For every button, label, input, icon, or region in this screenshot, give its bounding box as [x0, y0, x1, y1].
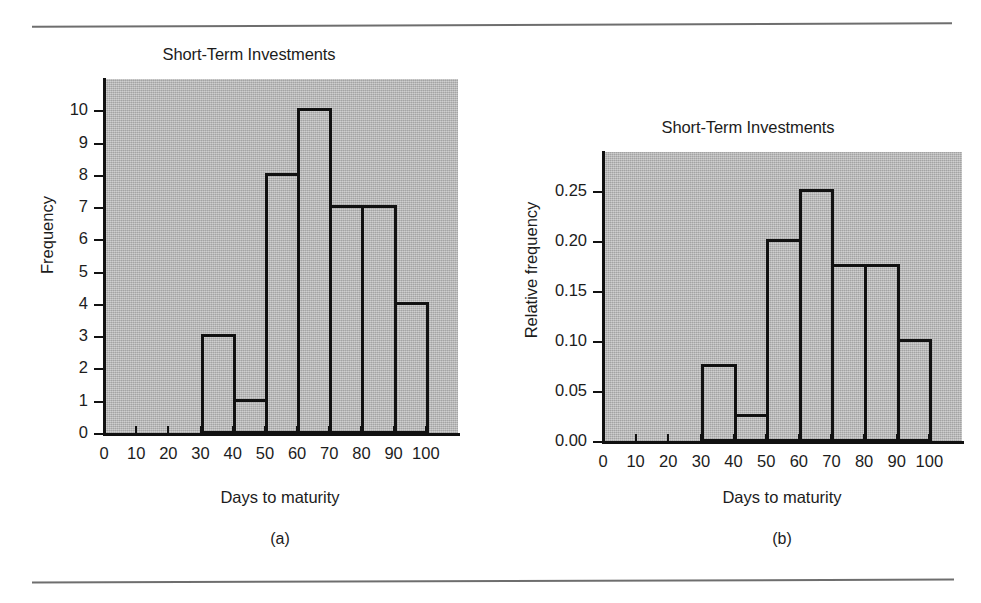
x-tick-label: 10 — [120, 444, 152, 463]
x-tick-label: 70 — [313, 444, 345, 463]
x-tick-label: 0 — [88, 444, 120, 463]
x-tick-label: 70 — [815, 452, 847, 471]
histogram-bar — [864, 264, 900, 442]
chart-b-y-axis-label: Relative frequency — [522, 140, 541, 400]
histogram-bar — [233, 399, 268, 434]
y-tick-label: 0.10 — [543, 331, 587, 350]
y-tick — [593, 391, 602, 393]
x-tick-label: 50 — [750, 452, 782, 471]
y-tick-label: 6 — [60, 229, 88, 248]
x-tick-label: 100 — [913, 452, 945, 471]
y-tick-label: 0.15 — [543, 281, 587, 300]
chart-b-caption: (b) — [702, 530, 862, 548]
y-tick-label: 7 — [60, 197, 88, 216]
y-tick-label: 3 — [60, 326, 88, 345]
y-tick-label: 5 — [60, 262, 88, 281]
x-tick-label: 40 — [217, 444, 249, 463]
y-tick — [593, 241, 602, 243]
y-tick-label: 9 — [60, 133, 88, 152]
chart-b-x-axis-label: Days to maturity — [662, 488, 902, 507]
chart-a-caption: (a) — [200, 530, 360, 548]
y-tick — [94, 304, 103, 306]
histogram-bar — [897, 339, 933, 442]
y-tick — [593, 441, 602, 443]
histogram-bar — [734, 414, 770, 442]
histogram-bar — [361, 205, 396, 434]
histogram-bar — [831, 264, 867, 442]
histogram-bar — [766, 239, 802, 442]
y-tick-label: 0.20 — [543, 231, 587, 250]
x-tick-label: 30 — [685, 452, 717, 471]
histogram-bar — [201, 334, 236, 434]
x-tick-label: 20 — [652, 452, 684, 471]
chart-panel-a: Short-Term Investments 012345678910 0102… — [0, 0, 490, 603]
y-tick — [593, 191, 602, 193]
x-tick-label: 30 — [185, 444, 217, 463]
y-tick — [94, 143, 103, 145]
y-tick-label: 0.00 — [543, 431, 587, 450]
x-tick-label: 60 — [281, 444, 313, 463]
y-tick-label: 2 — [60, 358, 88, 377]
x-tick-label: 0 — [587, 452, 619, 471]
x-tick-label: 100 — [410, 444, 442, 463]
x-tick-label: 20 — [152, 444, 184, 463]
y-tick-label: 10 — [60, 100, 88, 119]
y-tick-label: 4 — [60, 294, 88, 313]
x-tick-label: 90 — [881, 452, 913, 471]
histogram-bar — [329, 205, 364, 434]
y-tick — [94, 239, 103, 241]
x-tick-label: 40 — [718, 452, 750, 471]
y-tick — [94, 336, 103, 338]
y-tick-label: 8 — [60, 165, 88, 184]
y-tick — [94, 110, 103, 112]
y-tick — [94, 401, 103, 403]
y-tick — [94, 175, 103, 177]
histogram-bar — [297, 108, 332, 434]
y-tick — [94, 433, 103, 435]
x-tick-label: 80 — [345, 444, 377, 463]
figure-page: Short-Term Investments 012345678910 0102… — [0, 0, 981, 603]
chart-b-bars — [603, 152, 962, 442]
x-tick-label: 60 — [783, 452, 815, 471]
y-tick-label: 0 — [60, 423, 88, 442]
y-tick-label: 0.25 — [543, 181, 587, 200]
chart-a-title: Short-Term Investments — [104, 45, 394, 64]
histogram-bar — [265, 173, 300, 434]
y-tick — [593, 291, 602, 293]
y-tick-label: 0.05 — [543, 381, 587, 400]
y-tick-label: 1 — [60, 391, 88, 410]
chart-a-bars — [104, 79, 458, 434]
chart-a-x-axis-label: Days to maturity — [160, 488, 400, 507]
chart-panel-b: Short-Term Investments 0.000.050.100.150… — [490, 0, 981, 603]
chart-a-y-axis-label: Frequency — [38, 135, 57, 335]
x-tick-label: 80 — [848, 452, 880, 471]
x-tick-label: 10 — [620, 452, 652, 471]
x-tick-label: 90 — [378, 444, 410, 463]
y-tick — [593, 341, 602, 343]
chart-b-title: Short-Term Investments — [603, 118, 893, 137]
x-tick-label: 50 — [249, 444, 281, 463]
histogram-bar — [701, 364, 737, 442]
y-tick — [94, 207, 103, 209]
y-tick — [94, 272, 103, 274]
histogram-bar — [394, 302, 429, 434]
y-tick — [94, 368, 103, 370]
histogram-bar — [799, 189, 835, 442]
